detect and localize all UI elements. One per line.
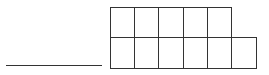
grid-box [134,37,160,69]
grid-box [183,37,209,69]
grid-box [158,7,184,39]
grid-box [231,37,257,69]
grid-box [207,37,233,69]
grid-box [183,7,209,39]
grid-box [207,7,233,39]
grid-box [158,37,184,69]
answer-blank-line [6,65,102,66]
grid-box [110,37,136,69]
grid-box [110,7,136,39]
grid-box [134,7,160,39]
